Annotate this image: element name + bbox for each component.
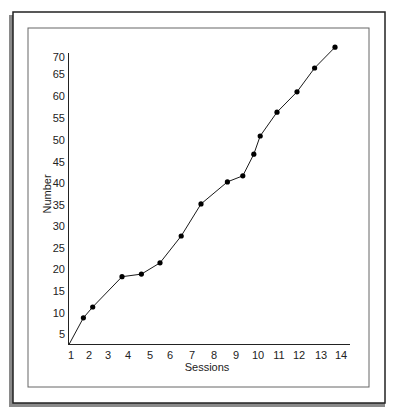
data-point-marker [139,272,144,277]
data-point-marker [179,233,184,238]
x-tick-label: 13 [315,349,327,361]
x-axis-title: Sessions [185,361,230,373]
data-point-marker [81,315,86,320]
data-point-marker [251,152,256,157]
y-tick-label: 45 [53,156,65,168]
x-tick-label: 10 [252,349,264,361]
x-tick-label: 3 [105,349,111,361]
x-tick-label: 7 [189,349,195,361]
x-tick-label: 11 [273,349,284,361]
y-tick-label: 15 [53,285,65,297]
data-point-marker [157,260,162,265]
data-point-marker [294,89,299,94]
y-tick-label: 20 [53,263,65,275]
data-point-marker [225,179,230,184]
data-point-marker [119,274,124,279]
x-tick-label: 4 [125,349,131,361]
y-axis-title: Number [41,174,53,213]
x-tick-label: 2 [86,349,92,361]
y-tick-label: 35 [53,199,65,211]
data-point-marker [312,65,317,70]
x-tick-label: 12 [293,349,305,361]
data-point-marker [90,304,95,309]
x-tick-label: 1 [68,349,74,361]
y-tick-label: 50 [53,134,65,146]
data-point-marker [332,45,337,50]
y-tick-label: 70 [53,51,65,63]
y-tick-label: 25 [53,242,65,254]
data-point-marker [274,110,279,115]
x-tick-label: 6 [167,349,173,361]
x-tick-label: 14 [335,349,347,361]
y-tick-label: 55 [53,112,65,124]
y-tick-label: 30 [53,220,65,232]
x-tick-label: 5 [147,349,153,361]
y-tick-label: 40 [53,177,65,189]
y-tick-label: 10 [53,307,65,319]
y-tick-label: 60 [53,90,65,102]
x-tick-label: 8 [211,349,217,361]
data-point-marker [258,133,263,138]
data-point-marker [198,201,203,206]
y-tick-label: 65 [53,68,65,80]
data-point-marker [240,173,245,178]
y-tick-label: 5 [59,328,65,340]
chart: 510152025303540455055606570 123456789101… [0,0,397,415]
x-tick-label: 9 [233,349,239,361]
